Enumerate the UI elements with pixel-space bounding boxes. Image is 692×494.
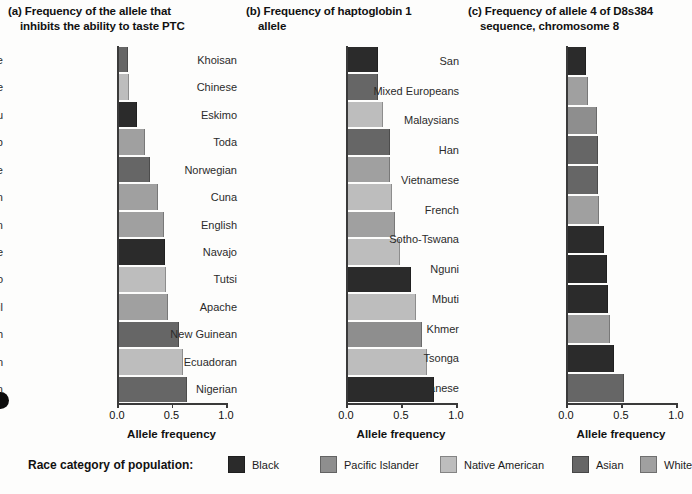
bar-row: French — [464, 195, 682, 225]
legend-item-native-american: Native American — [440, 456, 544, 473]
bar — [117, 47, 128, 72]
x-axis-tick-label: 0.0 — [109, 409, 124, 421]
bar-track — [566, 166, 676, 194]
bar — [566, 255, 607, 283]
bar-track — [117, 184, 226, 209]
y-axis-line — [117, 46, 119, 403]
bar-row-label: Navajo — [203, 246, 237, 258]
bar-row-label: Ecuadoran — [184, 356, 237, 368]
legend-swatch-icon — [640, 456, 657, 473]
bar-row: Tutsi — [242, 266, 460, 293]
bar-row: Malaysian — [8, 183, 232, 210]
bar-row-label: Apache — [200, 301, 237, 313]
bar-row-label: Lapp — [0, 136, 3, 148]
bar — [346, 349, 427, 374]
bar — [117, 349, 183, 374]
legend-item-black: Black — [228, 456, 279, 473]
bar-row: Tamil — [8, 293, 232, 320]
bar — [566, 196, 599, 224]
legend-swatch-icon — [440, 456, 457, 473]
panel-b: (b) Frequency of haptoglobin 1allele Kho… — [238, 0, 460, 440]
x-axis-tick — [676, 403, 678, 408]
legend-item-asian: Asian — [572, 456, 624, 473]
legend-item-white: White — [640, 456, 692, 473]
panel-b-title-line1: (b) Frequency of haptoglobin 1 — [246, 5, 412, 17]
bar-track — [566, 226, 676, 254]
bar-row-label: New Guinean — [170, 328, 237, 340]
bar-row-label: Chinese — [197, 81, 237, 93]
bar-row-label: Cuna — [211, 191, 237, 203]
x-axis-tick — [566, 403, 568, 408]
bar — [346, 157, 390, 182]
x-axis-tick-label: 1.0 — [218, 409, 233, 421]
bar — [117, 377, 187, 402]
bar-row-label: Mbuti — [432, 293, 459, 305]
x-axis-tick — [346, 403, 348, 408]
legend-title: Race category of population: — [28, 458, 193, 472]
panel-a-title-line1: (a) Frequency of the allele that — [8, 5, 171, 17]
bar-row-label: Sotho-Tswana — [389, 233, 459, 245]
bar — [117, 267, 166, 292]
legend-swatch-icon — [320, 456, 337, 473]
panel-c-rows: SanMixed EuropeansMalaysiansHanVietnames… — [464, 46, 682, 403]
bar-track — [566, 107, 676, 135]
bar — [566, 285, 608, 313]
bar-track — [566, 315, 676, 343]
x-axis-tick-label: 0.5 — [164, 409, 179, 421]
panel-b-title-line2: allele — [246, 19, 456, 34]
x-axis-tick-label: 0.5 — [613, 409, 628, 421]
bar-row-label: Venezuelan Indian — [0, 356, 3, 368]
legend-item-label: Native American — [464, 459, 544, 471]
bar — [566, 226, 604, 254]
y-axis-line — [566, 46, 568, 403]
bar-row-label: Japanese — [0, 164, 3, 176]
bar-row: San — [464, 46, 682, 76]
panel-c-title: (c) Frequency of allele 4 of D8s384seque… — [468, 4, 680, 33]
bar-row: Han — [464, 135, 682, 165]
bar-row: Malaysians — [464, 106, 682, 136]
bar-row-label: Mixed Europeans — [373, 85, 459, 97]
bar-row: Tsonga — [464, 344, 682, 374]
bar — [117, 157, 150, 182]
legend-swatch-icon — [228, 456, 245, 473]
bar — [117, 74, 129, 99]
bar-row: Nguni — [464, 254, 682, 284]
bar-row: Mbuti — [464, 284, 682, 314]
x-axis-tick-label: 0.0 — [558, 409, 573, 421]
bar-track — [566, 345, 676, 373]
bar-row: Khmer — [464, 314, 682, 344]
panel-c-plot: SanMixed EuropeansMalaysiansHanVietnames… — [464, 46, 682, 403]
bar-row-label: Belgian — [0, 219, 3, 231]
bar-row-label: Khmer — [427, 323, 459, 335]
bar — [346, 322, 422, 347]
bar-row: Belgian — [8, 211, 232, 238]
bar-row: Khoisan — [242, 46, 460, 73]
bar — [117, 212, 164, 237]
legend-item-label: Black — [252, 459, 279, 471]
bar-row-label: Toda — [213, 136, 237, 148]
panel-c: (c) Frequency of allele 4 of D8s384seque… — [460, 0, 684, 440]
bar — [346, 47, 378, 72]
bar-row-label: Malaysians — [404, 114, 459, 126]
x-axis-title: Allele frequency — [117, 428, 226, 440]
y-axis-line — [346, 46, 348, 403]
bar-row-label: Khoisan — [197, 54, 237, 66]
bar — [566, 374, 624, 402]
bar-row-label: Nigerian — [196, 383, 237, 395]
x-axis-tick — [621, 403, 623, 408]
bar-row-label: Bantu — [0, 109, 3, 121]
panel-a-plot: TaiwaneseCreeBantuLappJapaneseMalaysianB… — [8, 46, 232, 403]
panel-a-title: (a) Frequency of the allele thatinhibits… — [8, 4, 236, 33]
bar-row-label: Eskimo — [201, 109, 237, 121]
legend-item-label: Asian — [596, 459, 624, 471]
bar-row-label: Japanese — [411, 382, 459, 394]
bar-row-label: English — [201, 219, 237, 231]
panel-c-title-line2: sequence, chromosome 8 — [468, 19, 680, 34]
bar — [566, 107, 597, 135]
legend-item-label: Pacific Islander — [344, 459, 419, 471]
bar-track — [566, 77, 676, 105]
bar — [117, 102, 137, 127]
legend-item-pacific-islander: Pacific Islander — [320, 456, 419, 473]
x-axis-tick — [172, 403, 174, 408]
